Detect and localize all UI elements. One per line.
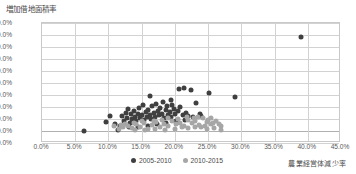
- data-point: [168, 97, 173, 102]
- data-point: [179, 125, 184, 130]
- y-tick-label: 160.0%: [0, 31, 14, 38]
- y-tick-label: 100.0%: [0, 67, 14, 74]
- data-point: [172, 126, 177, 131]
- y-tick-label: 40.0%: [0, 103, 14, 110]
- data-point: [232, 95, 237, 100]
- y-axis-title: 増加借地面積率: [6, 3, 56, 14]
- x-axis-title: 農業経営体減少率: [288, 158, 346, 168]
- y-tick-label: 140.0%: [0, 43, 14, 50]
- data-point: [133, 127, 138, 132]
- legend-label: 2010-2015: [191, 157, 224, 164]
- y-tick-label: -20.0%: [0, 139, 14, 146]
- gridline-horizontal: [42, 47, 339, 48]
- legend-item-series-0[interactable]: 2005-2010: [131, 157, 172, 164]
- data-point: [142, 128, 147, 133]
- data-point: [184, 115, 189, 120]
- y-tick-label: 120.0%: [0, 55, 14, 62]
- gridline-vertical: [108, 23, 109, 141]
- legend-item-series-1[interactable]: 2010-2015: [183, 157, 224, 164]
- scatter-chart: 増加借地面積率 180.0%160.0%140.0%120.0%100.0%80…: [0, 0, 356, 174]
- data-point: [107, 114, 112, 119]
- gridline-horizontal: [42, 143, 339, 144]
- gridline-horizontal: [42, 71, 339, 72]
- data-point: [103, 120, 108, 125]
- data-point: [151, 118, 156, 123]
- data-point: [207, 91, 212, 96]
- data-point: [196, 114, 201, 119]
- data-point: [299, 34, 304, 39]
- data-point: [212, 126, 217, 131]
- data-point: [152, 127, 157, 132]
- x-tick-label: 10.0%: [98, 143, 117, 150]
- data-point: [131, 120, 136, 125]
- data-point: [111, 124, 116, 129]
- gridline-horizontal: [42, 107, 339, 108]
- legend-label: 2005-2010: [139, 157, 172, 164]
- data-point: [176, 87, 181, 92]
- data-point: [159, 117, 164, 122]
- x-tick-label: 0.0%: [33, 143, 48, 150]
- data-point: [194, 101, 199, 106]
- gridline-vertical: [75, 23, 76, 141]
- gridline-horizontal: [42, 23, 339, 24]
- y-tick-label: 80.0%: [0, 79, 14, 86]
- gridline-horizontal: [42, 59, 339, 60]
- gridline-vertical: [275, 23, 276, 141]
- y-tick-label: 180.0%: [0, 19, 14, 26]
- x-tick-label: 40.0%: [297, 143, 316, 150]
- y-tick-label: 20.0%: [0, 115, 14, 122]
- data-point: [218, 127, 223, 132]
- x-tick-label: 25.0%: [198, 143, 217, 150]
- data-point: [166, 115, 171, 120]
- x-tick-label: 5.0%: [67, 143, 82, 150]
- data-point: [119, 123, 124, 128]
- data-point: [162, 127, 167, 132]
- x-tick-label: 15.0%: [131, 143, 150, 150]
- y-tick-label: 0.0%: [0, 127, 14, 134]
- data-point: [140, 103, 145, 108]
- data-point: [204, 127, 209, 132]
- data-point: [139, 119, 144, 124]
- data-point: [148, 94, 153, 99]
- x-tick-label: 20.0%: [165, 143, 184, 150]
- x-tick-label: 35.0%: [264, 143, 283, 150]
- data-point: [186, 126, 191, 131]
- gridline-vertical: [241, 23, 242, 141]
- gridline-vertical: [308, 23, 309, 141]
- data-point: [158, 106, 163, 111]
- data-point: [192, 124, 197, 129]
- data-point: [182, 85, 187, 90]
- data-point: [81, 128, 86, 133]
- y-tick-label: 60.0%: [0, 91, 14, 98]
- data-point: [176, 117, 181, 122]
- data-point: [164, 103, 169, 108]
- gridline-horizontal: [42, 83, 339, 84]
- legend-swatch-icon: [183, 158, 188, 163]
- chart-legend: 2005-2010 2010-2015: [131, 157, 223, 164]
- data-point: [178, 105, 183, 110]
- gridline-horizontal: [42, 95, 339, 96]
- legend-swatch-icon: [131, 158, 136, 163]
- zero-axis-line: [42, 131, 339, 132]
- gridline-horizontal: [42, 35, 339, 36]
- x-tick-label: 30.0%: [231, 143, 250, 150]
- data-point: [188, 88, 193, 93]
- x-tick-label: 45.0%: [331, 143, 350, 150]
- plot-area: [41, 22, 340, 142]
